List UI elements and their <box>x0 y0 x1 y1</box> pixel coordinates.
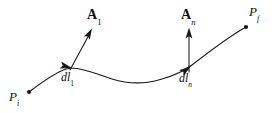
line-integral-diagram: Pi Pf A1 An dl1 dln <box>0 0 278 113</box>
label-vector-first-subscript: 1 <box>97 17 101 27</box>
label-start-point-symbol: P <box>9 89 17 104</box>
label-end-point-subscript: f <box>257 14 259 23</box>
label-element-last: dln <box>179 72 192 84</box>
label-element-last-subscript: n <box>188 80 192 89</box>
end-point-dot <box>244 25 248 29</box>
label-vector-last-subscript: n <box>191 17 195 27</box>
label-element-first-symbol: dl <box>61 70 70 84</box>
vector-A1-arrow <box>70 27 95 70</box>
label-end-point-symbol: P <box>249 4 257 19</box>
start-point-dot <box>27 90 31 94</box>
label-start-point-subscript: i <box>17 99 19 108</box>
label-element-first: dl1 <box>61 71 74 83</box>
label-element-first-subscript: 1 <box>70 79 74 88</box>
label-vector-first-symbol: A <box>87 7 97 22</box>
label-vector-last-symbol: A <box>181 7 191 22</box>
label-start-point: Pi <box>9 90 19 103</box>
label-end-point: Pf <box>249 5 259 18</box>
label-vector-first: A1 <box>87 8 101 22</box>
diagram-canvas <box>0 0 278 113</box>
label-vector-last: An <box>181 8 195 22</box>
label-element-last-symbol: dl <box>179 71 188 85</box>
